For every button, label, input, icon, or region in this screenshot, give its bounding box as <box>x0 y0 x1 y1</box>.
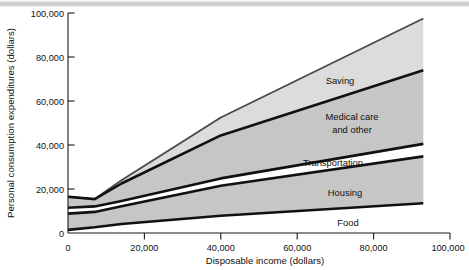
y-tick-label: 40,000 <box>36 141 64 151</box>
y-tick-label: 0 <box>59 229 64 239</box>
y-tick-label: 80,000 <box>36 53 64 63</box>
y-tick-labels: 100,000 80,000 60,000 40,000 20,000 0 <box>31 9 64 239</box>
series-label-food: Food <box>337 217 358 228</box>
stacked-area-chart: 100,000 80,000 60,000 40,000 20,000 0 0 … <box>0 0 469 270</box>
y-tick-label: 60,000 <box>36 97 64 107</box>
y-axis-ticks <box>68 13 75 189</box>
series-label-saving: Saving <box>326 75 355 86</box>
x-tick-label: 60,000 <box>283 243 311 253</box>
x-tick-label: 100,000 <box>431 243 464 253</box>
x-tick-label: 20,000 <box>130 243 158 253</box>
y-tick-label: 20,000 <box>36 185 64 195</box>
x-tick-label: 0 <box>65 243 70 253</box>
y-tick-label: 100,000 <box>31 9 64 19</box>
series-label-medical-care-line2: and other <box>332 124 372 135</box>
x-axis-ticks <box>144 233 450 240</box>
x-axis-title: Disposable income (dollars) <box>206 255 324 266</box>
chart-svg: 100,000 80,000 60,000 40,000 20,000 0 0 … <box>0 0 469 270</box>
x-tick-label: 80,000 <box>360 243 388 253</box>
series-label-transportation: Transportation <box>303 157 363 168</box>
series-label-housing: Housing <box>328 187 362 198</box>
y-axis-title: Personal consumption expenditures (dolla… <box>5 28 16 218</box>
series-label-medical-care-line1: Medical care <box>325 111 378 122</box>
x-tick-labels: 0 20,000 40,000 60,000 80,000 100,000 <box>65 243 464 253</box>
x-tick-label: 40,000 <box>207 243 235 253</box>
